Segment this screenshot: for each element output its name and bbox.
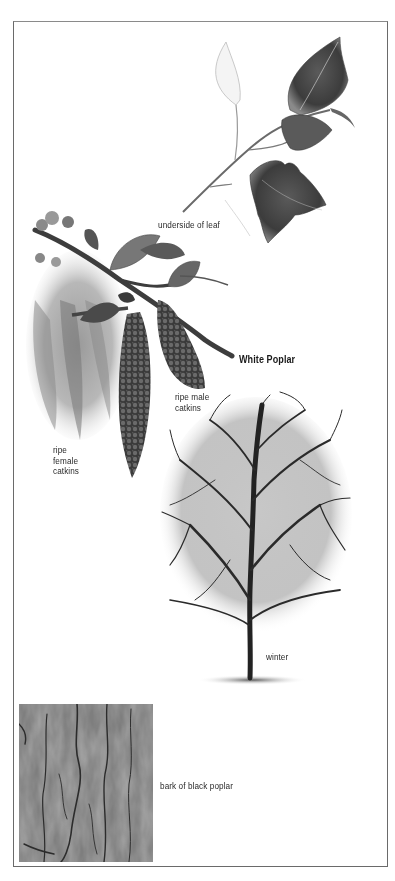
- bark-texture-icon: [19, 704, 153, 862]
- label-ripe-female-catkins: ripe female catkins: [53, 445, 79, 477]
- label-underside-of-leaf: underside of leaf: [158, 220, 220, 231]
- field-guide-page: underside of leaf White Poplar ripe male…: [0, 0, 395, 881]
- label-line: catkins: [53, 466, 79, 477]
- winter-tree-illustration: [160, 392, 352, 685]
- label-line: ripe: [53, 445, 79, 456]
- bark-texture-photo: [19, 704, 153, 862]
- label-bark-caption: bark of black poplar: [160, 781, 233, 792]
- label-line: catkins: [175, 403, 209, 414]
- label-winter: winter: [266, 652, 288, 663]
- species-title: White Poplar: [239, 354, 295, 365]
- label-line: ripe male: [175, 392, 209, 403]
- label-ripe-male-catkins: ripe male catkins: [175, 392, 209, 413]
- leaf-sprig-illustration: [183, 37, 355, 243]
